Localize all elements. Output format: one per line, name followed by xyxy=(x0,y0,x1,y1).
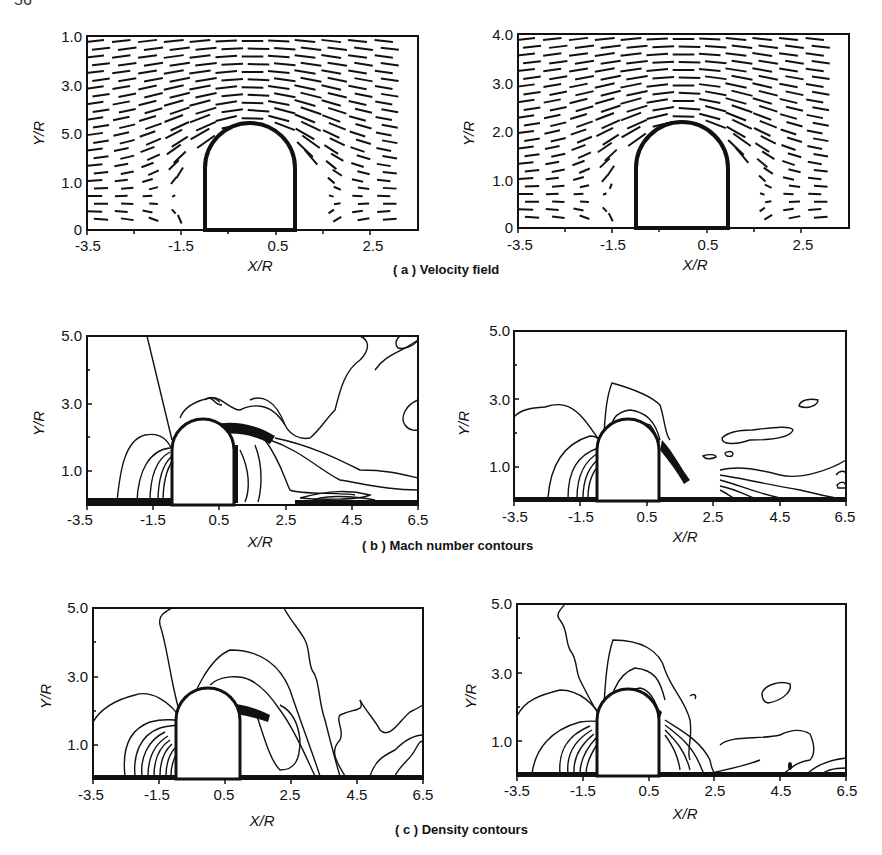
caption-c: ( c ) Density contours xyxy=(395,822,528,837)
ytick: 1.0 xyxy=(472,734,512,749)
xtick: 2.5 xyxy=(690,783,740,798)
xtick: 4.5 xyxy=(756,783,806,798)
density-contours-right-svg xyxy=(0,0,882,855)
plot-density-right: 5.0 3.0 1.0 -3.5 -1.5 0.5 2.5 4.5 6.5 X/… xyxy=(0,0,882,855)
xtick: -3.5 xyxy=(492,783,542,798)
xtick: 0.5 xyxy=(624,783,674,798)
xtick: 6.5 xyxy=(822,783,872,798)
ytick: 5.0 xyxy=(472,596,512,611)
xtick: -1.5 xyxy=(558,783,608,798)
y-axis-label: Y/R xyxy=(462,677,479,717)
x-axis-label: X/R xyxy=(655,805,715,822)
